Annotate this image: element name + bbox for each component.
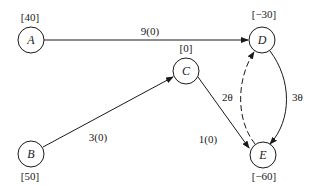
edge-label-b-c: 3(0) bbox=[89, 131, 108, 144]
edge-label-c-e: 1(0) bbox=[199, 133, 218, 146]
edge-e-d bbox=[241, 52, 255, 144]
node-c: C bbox=[173, 58, 199, 84]
supply-label-c: [0] bbox=[180, 42, 193, 54]
node-label-c: C bbox=[182, 64, 191, 78]
node-b: B bbox=[18, 141, 44, 167]
supply-label-b: [50] bbox=[21, 170, 39, 182]
node-label-d: D bbox=[257, 33, 267, 47]
edge-d-e bbox=[270, 51, 287, 144]
node-label-e: E bbox=[258, 148, 267, 162]
supply-label-a: [40] bbox=[21, 11, 39, 23]
node-label-a: A bbox=[26, 33, 35, 47]
edge-label-d-e: 3θ bbox=[292, 91, 303, 103]
network-diagram: 9(0) 3(0) 1(0) 3θ 2θ A [40] B [50] C [0]… bbox=[0, 0, 320, 186]
node-a: A bbox=[18, 27, 44, 53]
edge-b-c bbox=[43, 77, 173, 147]
node-e: E bbox=[250, 142, 276, 168]
node-d: D bbox=[249, 27, 275, 53]
supply-label-d: [−30] bbox=[252, 8, 277, 20]
supply-label-e: [−60] bbox=[252, 170, 277, 182]
node-label-b: B bbox=[27, 147, 35, 161]
edge-label-a-d: 9(0) bbox=[141, 25, 160, 38]
edge-label-e-d: 2θ bbox=[222, 91, 233, 103]
